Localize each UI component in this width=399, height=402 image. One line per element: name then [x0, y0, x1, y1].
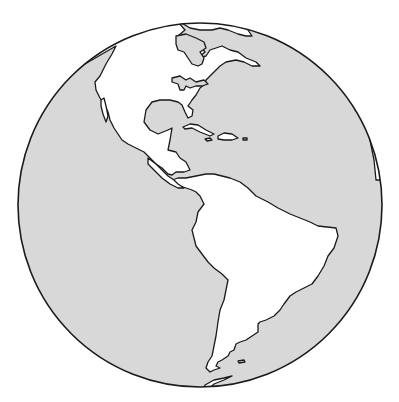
land-falkland-islands [238, 360, 245, 363]
globe-svg [0, 0, 399, 402]
globe-map: Western Hemisphere globe [0, 0, 399, 402]
land-jamaica [205, 138, 212, 141]
land-puerto-rico [243, 138, 247, 140]
